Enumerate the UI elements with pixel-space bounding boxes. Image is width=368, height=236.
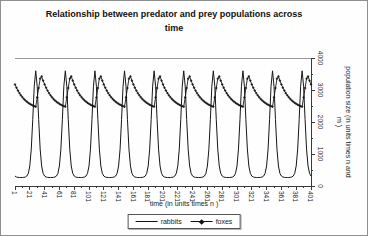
series-foxes-markers — [14, 75, 312, 108]
y-axis-title: population size (in units times n and m … — [335, 63, 353, 181]
series-rabbits — [15, 71, 311, 178]
legend: rabbits foxes — [128, 214, 241, 229]
foxes-marker-icon — [199, 219, 205, 225]
legend-label-rabbits: rabbits — [161, 218, 182, 225]
rabbits-line-sample — [136, 218, 158, 225]
x-axis-title: time (in units times n ) — [1, 200, 367, 207]
foxes-line-sample — [191, 218, 213, 225]
rabbits-line-icon — [136, 221, 158, 222]
series-foxes — [15, 76, 311, 106]
legend-label-foxes: foxes — [216, 218, 233, 225]
predator-prey-chart: Relationship between predator and prey p… — [0, 0, 368, 236]
